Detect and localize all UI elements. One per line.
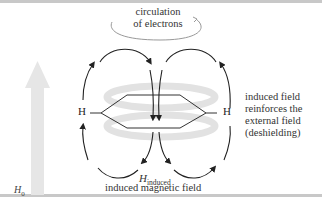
hydrogen-left-label: H <box>78 105 86 117</box>
h0-label: H0 <box>14 184 25 198</box>
induced-field-caption: induced magnetic field <box>105 182 201 194</box>
hydrogen-right-label: H <box>223 105 231 117</box>
deshielding-note: induced field reinforces the external fi… <box>245 91 302 139</box>
ring-current-torus-icon <box>107 86 215 137</box>
external-field-arrow-icon <box>25 61 50 195</box>
circulation-label: circulation of electrons <box>118 6 198 30</box>
